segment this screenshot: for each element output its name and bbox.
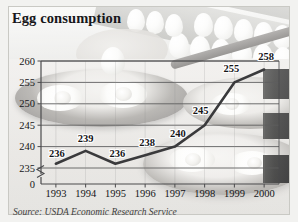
y-axis-tick-label: 240 [19, 141, 35, 152]
x-axis-tick-label: 1997 [164, 188, 185, 199]
x-axis-ticks [56, 61, 264, 188]
y-axis-tick-label: 245 [19, 120, 35, 131]
x-axis-tick-label: 2000 [254, 188, 275, 199]
x-axis-labels: 19931994199519961997199819992000 [45, 188, 274, 199]
x-axis-tick-label: 1998 [194, 188, 215, 199]
data-point-label: 236 [49, 148, 65, 159]
x-axis-tick-label: 1994 [75, 188, 97, 199]
y-axis-tick-label: 260 [19, 56, 35, 67]
x-axis-tick-label: 1995 [105, 188, 126, 199]
y-axis-tick-label: 235 [19, 163, 35, 174]
data-point-labels: 236239236238240245255258 [49, 51, 274, 159]
data-point-label: 240 [170, 128, 186, 139]
axis-break-mark [37, 166, 44, 178]
y-axis-labels: 2352402452502552600 [19, 56, 35, 190]
data-point-label: 245 [193, 105, 209, 116]
data-point-label: 239 [78, 133, 94, 144]
y-axis-origin-label: 0 [30, 179, 35, 190]
axis-break-zigzag [37, 166, 44, 178]
y-axis-tick-label: 255 [19, 77, 35, 88]
data-point-label: 258 [258, 51, 274, 62]
chart-figure: Egg consumption 2352402452502552600 1993… [0, 0, 298, 222]
x-axis-tick-label: 1996 [135, 188, 156, 199]
data-point-label: 238 [139, 137, 155, 148]
chart-canvas: 2352402452502552600 19931994199519961997… [8, 6, 290, 215]
x-axis-tick-label: 1993 [45, 188, 66, 199]
chart-title: Egg consumption [12, 10, 121, 27]
x-axis-tick-label: 1999 [224, 188, 245, 199]
y-axis-tick-label: 250 [19, 98, 35, 109]
source-note: Source: USDA Economic Research Service [13, 207, 177, 217]
line-chart: 2352402452502552600 19931994199519961997… [8, 6, 290, 215]
series-line-egg-consumption [56, 70, 264, 164]
data-point-label: 255 [224, 63, 240, 74]
data-point-label: 236 [110, 148, 126, 159]
data-line [56, 70, 264, 164]
